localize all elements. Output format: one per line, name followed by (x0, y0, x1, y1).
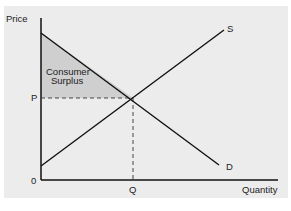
origin-label: 0 (31, 175, 36, 186)
x-axis-label: Quantity (242, 184, 278, 195)
supply-label: S (227, 23, 233, 34)
supply-demand-diagram: Price Quantity 0 P Q S D Consumer Surplu… (0, 0, 291, 211)
y-axis-label: Price (6, 13, 28, 24)
price-label: P (31, 92, 37, 103)
consumer-surplus-label-line2: Surplus (51, 75, 83, 86)
demand-label: D (226, 161, 233, 172)
quantity-label: Q (129, 184, 136, 195)
